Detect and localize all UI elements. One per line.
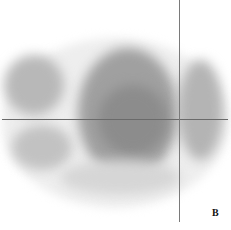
right-region bbox=[178, 60, 223, 160]
lower-region bbox=[60, 160, 180, 195]
panel-label: B bbox=[212, 207, 219, 218]
crosshair-horizontal-line bbox=[2, 119, 228, 120]
left-lobe-region bbox=[4, 55, 64, 115]
scan-image: B bbox=[0, 0, 231, 230]
crosshair-vertical-line bbox=[179, 0, 180, 222]
central-dense-region bbox=[98, 85, 168, 155]
left-lower-region bbox=[12, 125, 72, 170]
